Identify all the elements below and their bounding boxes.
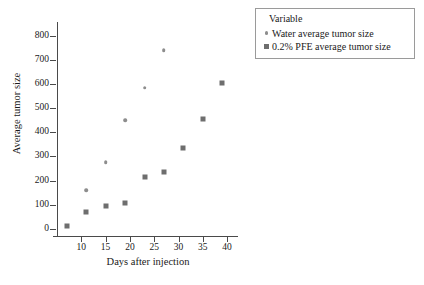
legend-entry-water: Water average tumor size	[262, 27, 408, 40]
y-tick	[50, 36, 56, 37]
y-axis-title: Average tumor size	[11, 59, 22, 169]
y-tick-label: 800	[3, 31, 49, 41]
y-tick-label: 200	[3, 176, 49, 186]
x-tick-label: 30	[167, 243, 191, 253]
data-point	[104, 161, 108, 165]
data-point	[64, 224, 69, 229]
data-point	[220, 80, 225, 85]
legend-entry-pfe: 0.2% PFE average tumor size	[262, 40, 408, 53]
data-point	[123, 201, 128, 206]
x-tick-label: 15	[94, 243, 118, 253]
x-tick-label: 20	[118, 243, 142, 253]
y-tick	[50, 229, 56, 230]
square-marker-icon	[262, 44, 271, 49]
data-point	[103, 203, 108, 208]
legend-entry-label: Water average tumor size	[272, 27, 374, 40]
legend-title: Variable	[269, 13, 408, 26]
legend-entry-label: 0.2% PFE average tumor size	[272, 40, 391, 53]
scatter-chart: 0100200300400500600700800 10152025303540…	[0, 0, 424, 285]
data-point	[84, 188, 88, 192]
x-axis-title: Days after injection	[88, 256, 208, 267]
data-point	[161, 170, 166, 175]
plot-area	[57, 26, 232, 233]
y-tick-label: 0	[3, 224, 49, 234]
y-axis-tick-labels: 0100200300400500600700800	[0, 0, 49, 285]
data-point	[142, 174, 147, 179]
x-tick-label: 35	[191, 243, 215, 253]
data-point	[143, 86, 147, 90]
x-tick-label: 25	[142, 243, 166, 253]
y-tick	[50, 181, 56, 182]
x-tick-label: 40	[215, 243, 239, 253]
legend: Variable Water average tumor size 0.2% P…	[255, 8, 415, 59]
y-tick	[50, 156, 56, 157]
y-tick	[50, 108, 56, 109]
data-point	[181, 145, 186, 150]
y-tick	[50, 205, 56, 206]
y-tick	[50, 84, 56, 85]
x-tick-label: 10	[69, 243, 93, 253]
data-point	[123, 118, 127, 122]
y-tick	[50, 60, 56, 61]
y-tick	[50, 132, 56, 133]
circle-marker-icon	[262, 31, 271, 35]
y-tick-label: 100	[3, 200, 49, 210]
data-point	[200, 116, 205, 121]
data-point	[162, 48, 166, 52]
data-point	[84, 209, 89, 214]
